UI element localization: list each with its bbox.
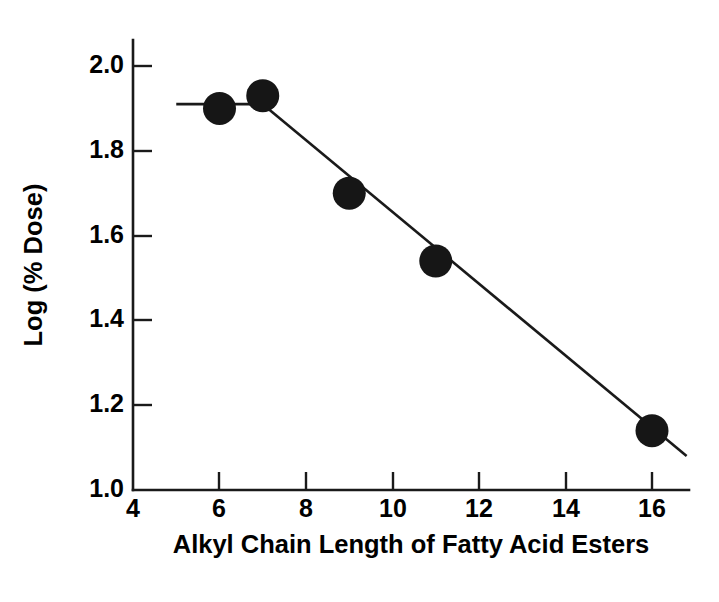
data-point bbox=[636, 414, 669, 447]
y-tick-label-1-0: 1.0 bbox=[89, 474, 124, 502]
fit-line-descending-regression-segment bbox=[263, 104, 687, 456]
x-tick-label-10: 10 bbox=[379, 494, 407, 522]
data-point bbox=[203, 92, 236, 125]
x-axis-title: Alkyl Chain Length of Fatty Acid Esters bbox=[173, 530, 650, 558]
y-tick-labels: 1.0 1.2 1.4 1.6 1.8 2.0 bbox=[89, 50, 124, 502]
y-tick-marks bbox=[133, 66, 152, 405]
y-tick-label-1-8: 1.8 bbox=[89, 135, 124, 163]
x-tick-label-4: 4 bbox=[126, 494, 140, 522]
y-axis-title: Log (% Dose) bbox=[19, 184, 47, 347]
data-point bbox=[246, 79, 279, 112]
x-tick-marks bbox=[219, 472, 652, 490]
x-tick-label-14: 14 bbox=[552, 494, 580, 522]
x-tick-label-16: 16 bbox=[638, 494, 666, 522]
y-tick-label-1-6: 1.6 bbox=[89, 220, 124, 248]
x-tick-label-6: 6 bbox=[212, 494, 226, 522]
y-tick-label-1-4: 1.4 bbox=[89, 304, 124, 332]
x-tick-label-12: 12 bbox=[465, 494, 493, 522]
x-tick-labels: 4 6 8 10 12 14 16 bbox=[126, 494, 666, 522]
data-point bbox=[333, 177, 366, 210]
data-point-group bbox=[203, 79, 669, 447]
chart-plot: 1.0 1.2 1.4 1.6 1.8 2.0 4 6 8 10 12 14 1… bbox=[0, 0, 719, 602]
figure-container: 1.0 1.2 1.4 1.6 1.8 2.0 4 6 8 10 12 14 1… bbox=[0, 0, 719, 602]
data-point bbox=[419, 245, 452, 278]
y-tick-label-1-2: 1.2 bbox=[89, 389, 124, 417]
fit-line-group bbox=[176, 104, 686, 456]
y-tick-label-2-0: 2.0 bbox=[89, 50, 124, 78]
x-tick-label-8: 8 bbox=[299, 494, 313, 522]
